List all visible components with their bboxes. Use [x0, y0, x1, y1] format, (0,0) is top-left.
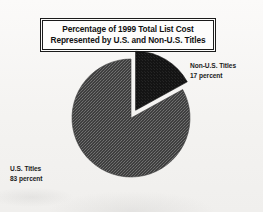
- pie-label-us-titles-name: U.S. Titles: [10, 164, 43, 174]
- chart-page: Percentage of 1999 Total List Cost Repre…: [0, 0, 263, 212]
- pie-label-non-us-titles-name: Non-U.S. Titles: [190, 61, 236, 71]
- pie-label-non-us-titles-value: 17 percent: [190, 71, 236, 81]
- pie-label-us-titles-value: 83 percent: [10, 174, 43, 184]
- pie-label-non-us-titles: Non-U.S. Titles 17 percent: [190, 61, 236, 80]
- pie-label-us-titles: U.S. Titles 83 percent: [10, 164, 43, 183]
